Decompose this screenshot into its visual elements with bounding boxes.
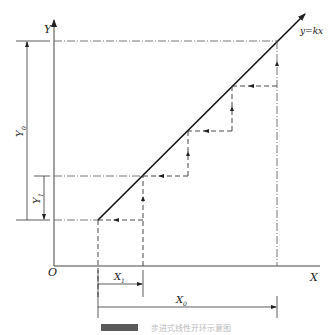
line-y-equals-kx — [98, 14, 305, 220]
y-axis-label: Y — [44, 23, 53, 36]
line-equation-label: y=kx — [299, 26, 323, 36]
x-axis-label: X — [309, 271, 319, 284]
y0-label: Y 0 — [14, 126, 27, 137]
x1-label: X 1 — [113, 271, 125, 284]
svg-text:0: 0 — [183, 300, 187, 307]
svg-text:0: 0 — [20, 126, 27, 130]
caption-text: 步进式线性开环示意图 — [151, 323, 231, 333]
svg-text:1: 1 — [37, 193, 44, 197]
origin-label: O — [48, 266, 57, 279]
diagram-canvas: Y X O y=kx Y 0 Y 1 X 1 X 0 步进式线性开环示意图 — [0, 0, 334, 335]
staircase-arrows — [113, 61, 279, 222]
svg-text:1: 1 — [121, 277, 125, 284]
x0-label: X 0 — [175, 294, 187, 307]
x0-dimension — [98, 296, 277, 318]
caption-number-box — [101, 324, 138, 331]
figure-caption: 步进式线性开环示意图 — [101, 323, 231, 333]
y1-label: Y 1 — [31, 193, 44, 204]
